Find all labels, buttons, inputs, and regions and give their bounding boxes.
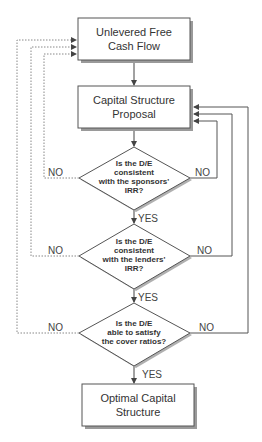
d1-yes-label: YES: [138, 213, 158, 224]
proposal-node-line1: Capital Structure: [93, 94, 175, 106]
decision2-node: Is the D/E consistent with the lenders' …: [79, 224, 192, 291]
decision1-node: Is the D/E consistent with the sponsors'…: [79, 147, 192, 212]
decision2-line1: Is the D/E: [116, 237, 153, 246]
end-node: Optimal Capital Structure: [82, 384, 197, 429]
d3-no-left-connector: [17, 40, 79, 333]
decision1-line3: with the sponsors': [98, 177, 169, 186]
d2-no-left-label: NO: [48, 245, 63, 256]
decision2-line3: with the lenders': [102, 255, 166, 264]
proposal-node-line2: Proposal: [112, 108, 155, 120]
decision3-line1: Is the D/E: [116, 319, 153, 328]
decision3-node: Is the D/E able to satisfy the cover rat…: [79, 303, 192, 368]
d1-no-left-connector: [44, 54, 79, 178]
decision1-line1: Is the D/E: [116, 159, 153, 168]
d2-no-right-connector: [190, 114, 232, 256]
end-node-line1: Optimal Capital: [100, 392, 175, 404]
d2-no-right-label: NO: [197, 245, 212, 256]
proposal-node: Capital Structure Proposal: [78, 86, 193, 131]
flowchart-diagram: Unlevered Free Cash Flow Capital Structu…: [0, 0, 262, 442]
start-node-line1: Unlevered Free: [96, 26, 172, 38]
d2-yes-label: YES: [138, 292, 158, 303]
d3-no-right-label: NO: [199, 322, 214, 333]
decision3-line2: able to satisfy: [107, 328, 161, 337]
d1-no-left-label: NO: [48, 167, 63, 178]
d2-no-left-connector: [31, 47, 79, 256]
right-feedback-lines: [190, 107, 248, 333]
d3-no-right-connector: [190, 107, 248, 333]
decision1-line4: IRR?: [125, 186, 144, 195]
d1-no-right-label: NO: [195, 167, 210, 178]
end-node-line2: Structure: [116, 406, 161, 418]
decision2-line4: IRR?: [125, 264, 144, 273]
decision3-line3: the cover ratios?: [102, 337, 167, 346]
left-feedback-lines: [17, 40, 79, 333]
start-node-line2: Cash Flow: [108, 40, 160, 52]
decision1-line2: consistent: [114, 168, 154, 177]
d3-no-left-label: NO: [48, 322, 63, 333]
decision2-line2: consistent: [114, 246, 154, 255]
start-node: Unlevered Free Cash Flow: [78, 18, 193, 63]
start-node-box: [78, 18, 190, 60]
proposal-node-box: [78, 86, 190, 128]
end-node-box: [82, 384, 194, 426]
d3-yes-label: YES: [142, 369, 162, 380]
